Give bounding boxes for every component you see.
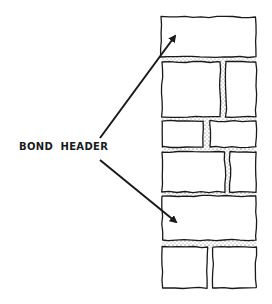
- bond-header-diagram: BOND HEADER: [0, 0, 272, 304]
- stretcher-brick: [162, 120, 203, 147]
- header-brick: [162, 195, 257, 240]
- stretcher-brick: [225, 61, 256, 117]
- stretcher-brick: [162, 247, 208, 289]
- brick-wall-illustration: [0, 0, 272, 304]
- stretcher-brick: [229, 152, 256, 193]
- stretcher-brick: [210, 120, 257, 147]
- stretcher-brick: [162, 151, 226, 192]
- bond-header-label: BOND HEADER: [19, 141, 108, 152]
- stretcher-brick: [162, 61, 221, 117]
- stretcher-brick: [212, 247, 256, 289]
